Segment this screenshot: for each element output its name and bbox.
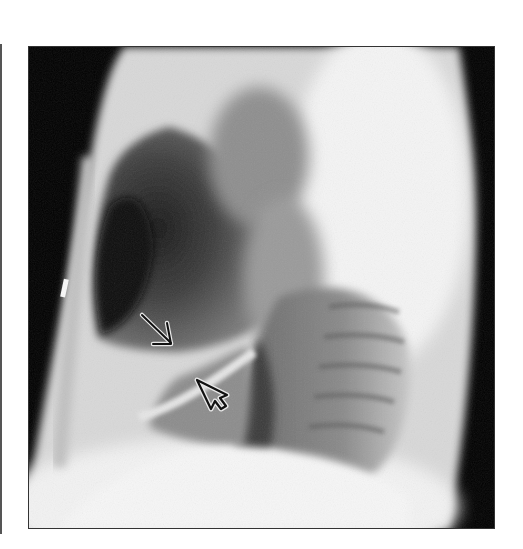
radiograph-image xyxy=(29,47,494,528)
left-edge-bar xyxy=(0,44,2,534)
radiograph-frame xyxy=(29,47,494,528)
